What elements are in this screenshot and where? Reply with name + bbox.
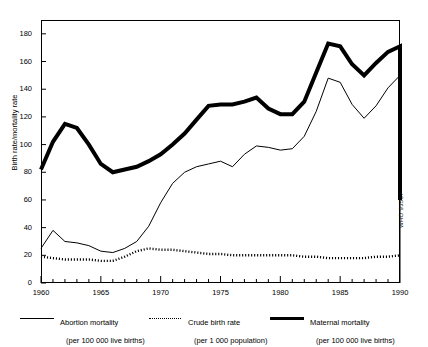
who-credit-label: WHO 93537: [398, 192, 404, 228]
legend-label-crude-birth-rate: Crude birth rate: [188, 318, 240, 327]
legend-sublabel-maternal-mortality: (per 100 000 live births): [310, 336, 395, 345]
series-line-crude-birth-rate: [41, 248, 400, 260]
legend-label-abortion-mortality: Abortion mortality: [60, 318, 118, 327]
x-tick-label: 1980: [264, 288, 296, 297]
legend-swatch-thin-line-icon: [20, 315, 56, 323]
x-tick-label: 1990: [384, 288, 416, 297]
x-tick-label: 1965: [85, 288, 117, 297]
axis-ticks: [41, 34, 400, 283]
x-tick-label: 1970: [145, 288, 177, 297]
legend-swatch-thick-line-icon: [270, 315, 306, 323]
y-tick-label: 160: [6, 58, 32, 66]
legend-sublabel-crude-birth-rate: (per 1 000 population): [188, 336, 267, 345]
y-tick-label: 40: [6, 224, 32, 232]
y-tick-label: 100: [6, 141, 32, 149]
series-line-maternal-mortality: [41, 44, 400, 200]
chart-legend: Abortion mortality (per 100 000 live bir…: [20, 311, 420, 339]
y-tick-label: 120: [6, 113, 32, 121]
y-tick-label: 0: [6, 279, 32, 287]
x-tick-label: 1985: [324, 288, 356, 297]
x-tick-label: 1975: [205, 288, 237, 297]
y-tick-label: 180: [6, 30, 32, 38]
legend-swatch-dotted-line-icon: [148, 315, 184, 323]
y-tick-label: 20: [6, 251, 32, 259]
series-lines: [41, 44, 400, 277]
legend-sublabel-abortion-mortality: (per 100 000 live births): [60, 336, 145, 345]
x-tick-label: 1960: [25, 288, 57, 297]
y-tick-label: 80: [6, 168, 32, 176]
y-tick-label: 140: [6, 85, 32, 93]
legend-label-maternal-mortality: Maternal mortality: [310, 318, 370, 327]
y-tick-label: 60: [6, 196, 32, 204]
